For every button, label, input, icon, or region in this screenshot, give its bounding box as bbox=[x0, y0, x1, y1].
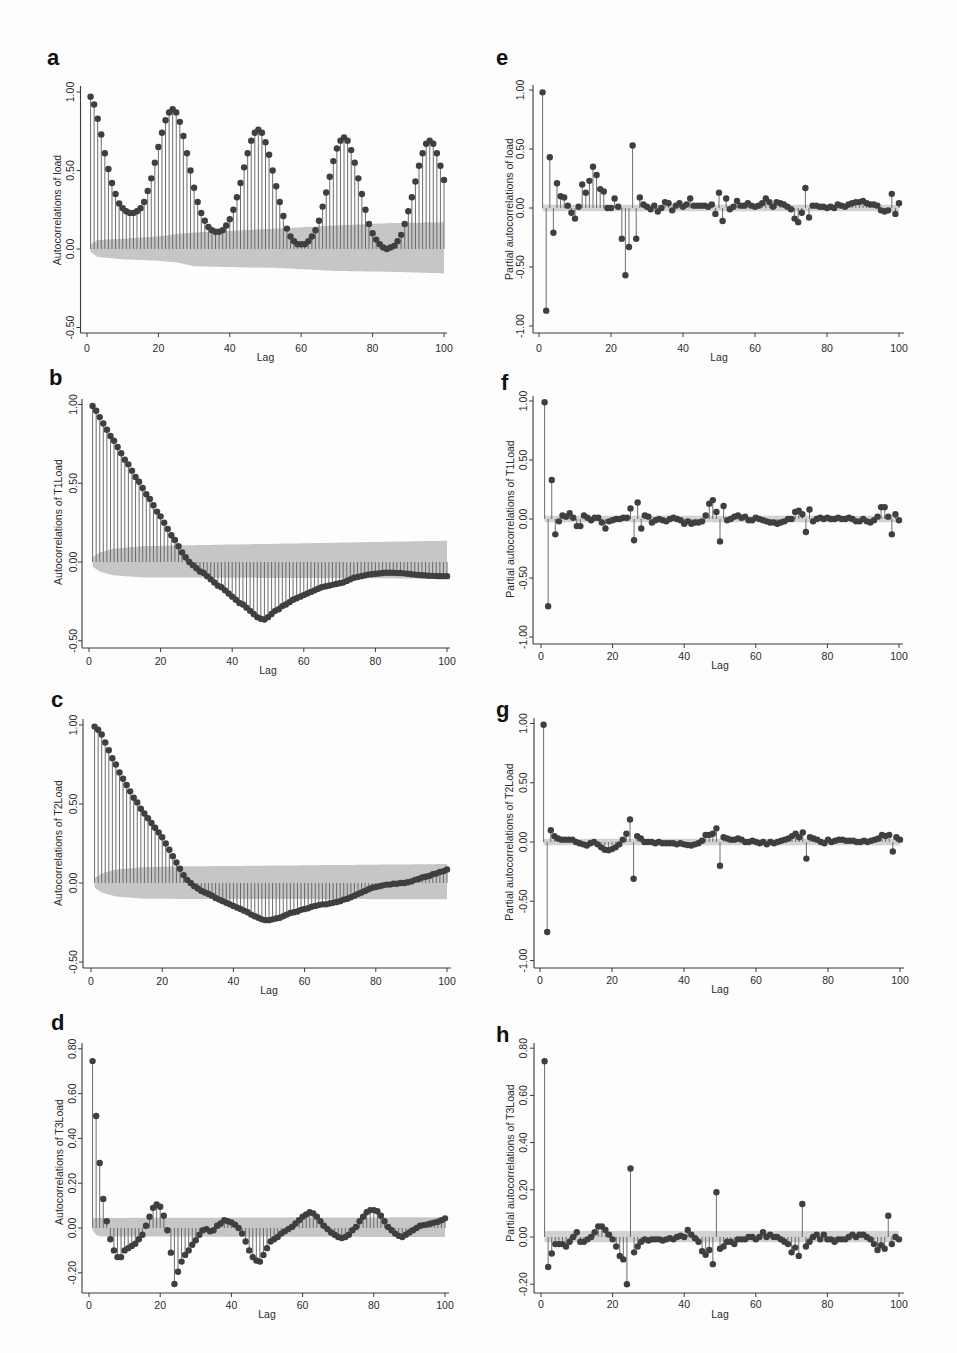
data-point bbox=[259, 130, 265, 136]
data-point bbox=[104, 427, 110, 433]
x-tick-label: 40 bbox=[678, 1298, 690, 1310]
data-point bbox=[444, 866, 450, 872]
data-point bbox=[173, 859, 179, 865]
data-point bbox=[257, 1258, 263, 1264]
data-point bbox=[327, 174, 333, 180]
data-point bbox=[896, 517, 902, 523]
data-point bbox=[198, 210, 204, 216]
acf-pacf-figure: a Autocorrelations of load Lag 1.000.500… bbox=[0, 0, 957, 1353]
data-point bbox=[713, 825, 719, 831]
x-tick-label: 80 bbox=[370, 655, 382, 667]
data-point bbox=[633, 235, 639, 241]
x-tick-label: 20 bbox=[154, 1299, 166, 1311]
x-tick-label: 40 bbox=[226, 655, 238, 667]
x-axis-title: Lag bbox=[710, 351, 728, 363]
data-point bbox=[796, 1253, 802, 1259]
data-point bbox=[572, 215, 578, 221]
data-point bbox=[170, 853, 176, 859]
y-tick-label: -0.20 bbox=[517, 1272, 529, 1296]
data-point bbox=[191, 185, 197, 191]
data-point bbox=[885, 513, 891, 519]
y-tick-label: -0.20 bbox=[66, 1261, 78, 1285]
data-point bbox=[539, 89, 545, 95]
y-tick-label: 0.50 bbox=[64, 160, 76, 181]
data-point bbox=[627, 816, 633, 822]
data-point bbox=[334, 145, 340, 151]
data-point bbox=[803, 529, 809, 535]
data-point bbox=[239, 1230, 245, 1236]
data-point bbox=[699, 838, 705, 844]
data-point bbox=[312, 227, 318, 233]
data-point bbox=[683, 201, 689, 207]
data-point bbox=[803, 855, 809, 861]
data-point bbox=[799, 210, 805, 216]
data-point bbox=[187, 167, 193, 173]
plot-area: 1.000.500.00-0.50-1.00020406080100 bbox=[517, 713, 909, 986]
data-point bbox=[615, 204, 621, 210]
data-point bbox=[166, 847, 172, 853]
panel-label: h bbox=[496, 1022, 509, 1047]
x-tick-label: 40 bbox=[677, 342, 689, 354]
data-point bbox=[574, 1229, 580, 1235]
data-point bbox=[602, 525, 608, 531]
data-point bbox=[369, 230, 375, 236]
data-point bbox=[100, 1196, 106, 1202]
data-point bbox=[262, 139, 268, 145]
data-point bbox=[235, 1225, 241, 1231]
data-point bbox=[717, 538, 723, 544]
x-tick-label: 60 bbox=[297, 1299, 309, 1311]
data-point bbox=[885, 207, 891, 213]
data-point bbox=[430, 141, 436, 147]
data-point bbox=[416, 163, 422, 169]
data-point bbox=[269, 167, 275, 173]
plot-area: 1.000.500.00-0.50-1.00020406080100 bbox=[517, 391, 908, 662]
data-point bbox=[619, 235, 625, 241]
panel-d: d Autocorrelations of T3Load Lag 0.800.6… bbox=[51, 1010, 454, 1320]
data-point bbox=[248, 137, 254, 143]
data-point bbox=[355, 175, 361, 181]
x-axis-title: Lag bbox=[711, 1308, 729, 1320]
plot-area: 1.000.500.00-0.50020406080100 bbox=[67, 394, 456, 667]
data-points bbox=[540, 721, 903, 935]
data-point bbox=[348, 147, 354, 153]
x-tick-label: 0 bbox=[84, 342, 90, 354]
data-point bbox=[681, 1234, 687, 1240]
data-point bbox=[886, 832, 892, 838]
data-point bbox=[896, 200, 902, 206]
data-point bbox=[230, 207, 236, 213]
data-point bbox=[352, 159, 358, 165]
data-point bbox=[405, 208, 411, 214]
data-point bbox=[409, 194, 415, 200]
x-tick-label: 40 bbox=[226, 1299, 238, 1311]
data-point bbox=[630, 876, 636, 882]
data-point bbox=[159, 834, 165, 840]
data-point bbox=[444, 573, 450, 579]
y-tick-label: 0.50 bbox=[67, 794, 79, 815]
data-point bbox=[89, 1058, 95, 1064]
x-tick-label: 0 bbox=[536, 342, 542, 354]
x-axis-title: Lag bbox=[257, 351, 275, 363]
y-tick-label: 1.00 bbox=[67, 715, 79, 736]
panel-label: a bbox=[47, 45, 60, 70]
y-tick-label: 0.00 bbox=[67, 552, 79, 573]
data-point bbox=[540, 721, 546, 727]
data-point bbox=[161, 1212, 167, 1218]
y-tick-label: -1.00 bbox=[517, 948, 529, 972]
data-point bbox=[277, 199, 283, 205]
data-points bbox=[89, 403, 450, 623]
data-point bbox=[125, 461, 131, 467]
data-point bbox=[890, 848, 896, 854]
y-axis-title: Autocorrelations of T1Load bbox=[52, 459, 64, 585]
data-point bbox=[146, 1214, 152, 1220]
data-point bbox=[165, 526, 171, 532]
data-point bbox=[556, 518, 562, 524]
data-point bbox=[609, 1236, 615, 1242]
data-point bbox=[624, 1281, 630, 1287]
data-point bbox=[437, 163, 443, 169]
x-tick-label: 80 bbox=[370, 975, 382, 987]
data-point bbox=[162, 117, 168, 123]
panel-b: b Autocorrelations of T1Load Lag 1.000.5… bbox=[49, 365, 456, 676]
panel-a: a Autocorrelations of load Lag 1.000.500… bbox=[47, 45, 453, 363]
data-point bbox=[91, 101, 97, 107]
data-point bbox=[570, 515, 576, 521]
